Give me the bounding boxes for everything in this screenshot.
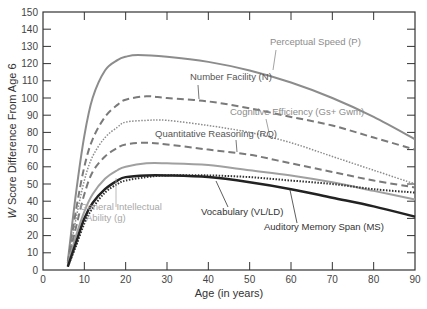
y-axis-label: W Score Difference From Age 6 xyxy=(6,63,18,218)
series-annotation: Auditory Memory Span (MS) xyxy=(264,221,384,232)
x-tick-label: 0 xyxy=(40,274,46,285)
y-tick-label: 30 xyxy=(27,213,39,224)
y-tick-label: 70 xyxy=(27,144,39,155)
line-chart: 0102030405060708090100110120130140150010… xyxy=(0,0,427,309)
x-axis-label: Age (in years) xyxy=(195,287,263,299)
y-tick-label: 20 xyxy=(27,230,39,241)
annotation-leader xyxy=(236,140,237,152)
y-tick-label: 80 xyxy=(27,127,39,138)
y-tick-label: 50 xyxy=(27,179,39,190)
series-annotation: Perceptual Speed (P) xyxy=(270,36,361,47)
y-tick-label: 90 xyxy=(27,110,39,121)
series-annotation: General Intellectual xyxy=(80,201,162,212)
x-tick-label: 20 xyxy=(120,274,132,285)
x-tick-label: 90 xyxy=(409,274,421,285)
y-tick-label: 120 xyxy=(21,58,38,69)
x-tick-label: 30 xyxy=(161,274,173,285)
x-tick-label: 50 xyxy=(244,274,256,285)
annotation-leader xyxy=(198,85,199,99)
y-tick-label: 130 xyxy=(21,41,38,52)
series-annotation: Cognitive Efficiency (Gs+ Gwm) xyxy=(230,106,364,117)
annotation-leader xyxy=(273,50,276,70)
y-tick-label: 150 xyxy=(21,7,38,18)
x-tick-label: 40 xyxy=(203,274,215,285)
y-tick-label: 40 xyxy=(27,196,39,207)
y-tick-label: 110 xyxy=(22,75,38,86)
series-annotation: Quantitative Reasoning (RQ) xyxy=(155,128,277,139)
chart-canvas: 0102030405060708090100110120130140150010… xyxy=(0,0,427,309)
series-line xyxy=(68,120,415,263)
x-tick-label: 70 xyxy=(327,274,339,285)
series-annotation: Ability (g) xyxy=(86,212,126,223)
y-tick-label: 10 xyxy=(27,247,39,258)
chart-series xyxy=(68,55,415,267)
y-axis-label-rest: Score Difference From Age 6 xyxy=(6,63,18,208)
series-annotation: Number Facility (N) xyxy=(190,71,272,82)
series-annotation: Vocabulary (VL/LD) xyxy=(201,206,283,217)
annotation-leader xyxy=(290,190,297,223)
y-tick-label: 140 xyxy=(21,24,38,35)
x-tick-label: 80 xyxy=(368,274,380,285)
y-tick-label: 60 xyxy=(27,161,39,172)
y-tick-label: 100 xyxy=(21,93,38,104)
annotation-leader xyxy=(216,181,228,207)
y-tick-label: 0 xyxy=(32,265,38,276)
chart-axes: 0102030405060708090100110120130140150010… xyxy=(21,7,421,286)
x-tick-label: 10 xyxy=(79,274,91,285)
x-tick-label: 60 xyxy=(285,274,297,285)
